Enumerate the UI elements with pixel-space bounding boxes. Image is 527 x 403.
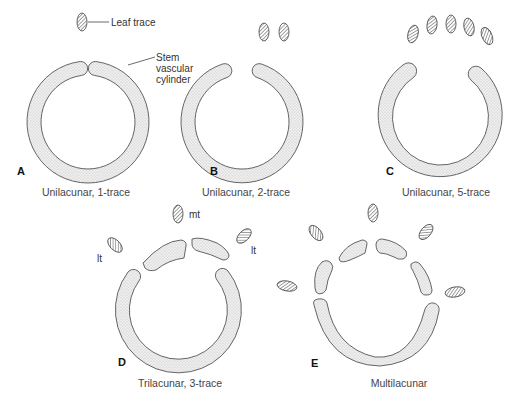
- lateral-trace-left-label: lt: [97, 253, 102, 264]
- stem-label-line3: cylinder: [156, 74, 190, 85]
- leaf-trace-label: Leaf trace: [111, 17, 155, 28]
- leaf-trace-icon: [77, 13, 87, 31]
- leaf-trace-icon: [306, 223, 325, 243]
- leaf-trace-icon: [426, 15, 438, 34]
- stem-vascular-cylinder: [115, 268, 241, 372]
- diagram-canvas: [0, 0, 527, 403]
- leaf-trace-icon: [446, 15, 456, 33]
- caption-c: Unilacunar, 5-trace: [402, 186, 490, 198]
- leaf-trace-icon: [416, 222, 435, 242]
- panel-letter-d: D: [118, 356, 126, 368]
- leaf-trace-icon: [368, 204, 378, 222]
- panel-b: [181, 23, 303, 183]
- stem-segment: [192, 238, 229, 260]
- caption-d: Trilacunar, 3-trace: [138, 377, 222, 389]
- leaf-trace-icon: [279, 23, 289, 41]
- caption-e: Multilacunar: [371, 377, 428, 389]
- stem-vascular-cylinder: [27, 61, 149, 183]
- leaf-trace-icon: [276, 279, 297, 292]
- stem-vascular-cylinder: [181, 64, 303, 183]
- leaf-trace-icon: [462, 17, 476, 37]
- panel-a: [27, 13, 155, 183]
- stem-vascular-cylinder: [314, 299, 440, 366]
- stem-segment: [143, 240, 186, 271]
- median-trace-label: mt: [189, 209, 200, 220]
- panel-letter-b: B: [210, 165, 218, 177]
- median-trace-icon: [173, 205, 183, 223]
- stem-vascular-cylinder: [378, 63, 502, 177]
- panel-letter-a: A: [17, 165, 25, 177]
- lateral-trace-icon: [234, 226, 254, 246]
- leaf-trace-icon: [406, 24, 420, 44]
- lateral-trace-right-label: lt: [251, 245, 256, 256]
- stem-label-line2: vascular: [156, 63, 193, 74]
- leaf-trace-icon: [444, 285, 465, 298]
- stem-segment: [376, 239, 407, 259]
- panel-letter-e: E: [311, 357, 318, 369]
- stem-pointer: [128, 57, 155, 65]
- caption-a: Unilacunar, 1-trace: [42, 186, 130, 198]
- lateral-trace-icon: [105, 235, 125, 255]
- panel-d: [105, 205, 254, 373]
- panel-c: [378, 15, 502, 177]
- stem-segment: [315, 261, 333, 294]
- stem-label-line1: Stem: [156, 52, 179, 63]
- panel-e: [276, 204, 465, 366]
- stem-segment: [411, 262, 432, 295]
- leaf-trace-icon: [479, 26, 496, 47]
- panel-letter-c: C: [386, 165, 394, 177]
- stem-segment: [339, 240, 367, 262]
- caption-b: Unilacunar, 2-trace: [202, 186, 290, 198]
- leaf-trace-icon: [259, 23, 269, 41]
